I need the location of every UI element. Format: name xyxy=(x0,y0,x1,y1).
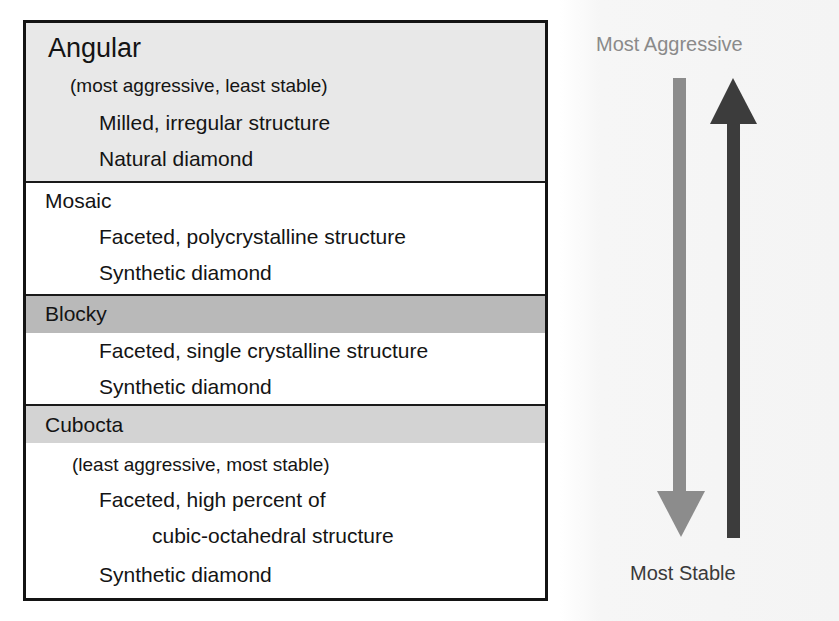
most-stable-label: Most Stable xyxy=(630,561,736,585)
diamond-types-table: Angular (most aggressive, least stable) … xyxy=(23,20,548,601)
down-arrow-icon xyxy=(657,78,705,537)
angular-detail-structure: Milled, irregular structure xyxy=(99,111,330,135)
angular-note: (most aggressive, least stable) xyxy=(70,75,328,97)
mosaic-detail-material: Synthetic diamond xyxy=(99,261,272,285)
aggressiveness-scale: Most Aggressive Most Stable xyxy=(560,0,839,621)
blocky-detail-structure: Faceted, single crystalline structure xyxy=(99,339,428,363)
scale-arrows xyxy=(560,0,839,621)
cubocta-detail-structure-1: Faceted, high percent of xyxy=(99,488,325,512)
angular-detail-material: Natural diamond xyxy=(99,147,253,171)
cubocta-heading: Cubocta xyxy=(45,413,123,437)
divider-angular-mosaic xyxy=(26,181,545,183)
cubocta-note: (least aggressive, most stable) xyxy=(72,454,330,476)
mosaic-detail-structure: Faceted, polycrystalline structure xyxy=(99,225,406,249)
mosaic-heading: Mosaic xyxy=(45,189,112,213)
cubocta-detail-material: Synthetic diamond xyxy=(99,563,272,587)
cubocta-detail-structure-2: cubic-octahedral structure xyxy=(152,524,394,548)
blocky-heading: Blocky xyxy=(45,302,107,326)
blocky-detail-material: Synthetic diamond xyxy=(99,375,272,399)
angular-heading: Angular xyxy=(48,33,141,63)
diagram-canvas: Angular (most aggressive, least stable) … xyxy=(0,0,839,621)
up-arrow-icon xyxy=(710,78,757,538)
